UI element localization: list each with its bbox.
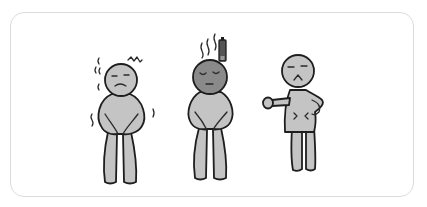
head [193, 60, 227, 94]
left-leg [194, 128, 207, 180]
right-leg [123, 132, 136, 184]
fist [263, 98, 273, 109]
figure-stomach-ache [263, 55, 323, 171]
steam-lines-icon [201, 34, 216, 58]
extended-arm [272, 98, 290, 106]
head [105, 64, 137, 96]
head [282, 55, 314, 87]
body [188, 92, 232, 129]
zigzag-icon [128, 57, 142, 62]
left-leg [291, 128, 302, 171]
figure-cold [91, 57, 154, 184]
figure-tired [188, 34, 232, 180]
low-battery-icon [219, 37, 226, 61]
left-leg [104, 132, 117, 184]
body [285, 90, 323, 132]
right-leg [213, 128, 226, 180]
illustration-scene [0, 0, 427, 207]
